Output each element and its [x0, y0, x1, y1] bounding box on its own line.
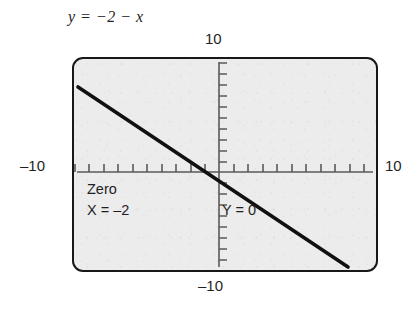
calculator-screen: Zero X = –2 Y = 0: [72, 57, 378, 272]
zero-readout-x-value: X = –2: [87, 202, 129, 218]
y-axis-ticks: [219, 63, 227, 260]
axis-range-label-bottom: –10: [198, 277, 223, 294]
graph-plot: [74, 59, 376, 270]
axis-range-label-top: 10: [205, 30, 222, 47]
equation-label: y = −2 − x: [68, 8, 144, 26]
axis-range-label-right: 10: [385, 157, 402, 174]
axis-range-label-left: –10: [20, 157, 45, 174]
zero-readout-y-value: Y = 0: [222, 202, 256, 218]
function-line: [78, 87, 348, 267]
zero-readout-title: Zero: [87, 181, 117, 197]
